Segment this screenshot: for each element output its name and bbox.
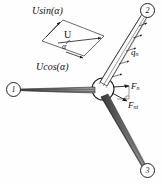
velocity-vector-usin — [46, 22, 60, 37]
distributed-load-subscript: n — [136, 51, 139, 57]
distributed-load-label: qn — [131, 48, 139, 57]
blade-1 — [18, 87, 95, 93]
velocity-label-ucos: Ucos(α) — [36, 62, 68, 72]
force-label-fnt: Fnt — [128, 101, 138, 110]
force-label-fn: Fn — [131, 82, 140, 91]
velocity-parallelogram — [42, 20, 104, 56]
diagram-canvas — [0, 0, 162, 184]
blade-marker-3: 3 — [140, 163, 155, 178]
blade-marker-2: 2 — [140, 3, 155, 18]
blade-3 — [101, 94, 147, 170]
rotor-force-diagram: Usin(α) U α Ucos(α) qn Fn Fnt 1 2 3 — [0, 0, 162, 184]
force-vector-fn — [113, 86, 129, 87]
velocity-label-u: U — [64, 30, 71, 40]
velocity-label-usin: Usin(α) — [32, 6, 63, 16]
blade-2 — [99, 14, 147, 88]
force-subscript-fnt: nt — [134, 104, 139, 110]
force-subscript-fn: n — [137, 85, 140, 91]
force-vector-fnt — [112, 93, 127, 101]
angle-label-alpha: α — [62, 43, 66, 51]
blade-marker-1: 1 — [6, 82, 21, 97]
